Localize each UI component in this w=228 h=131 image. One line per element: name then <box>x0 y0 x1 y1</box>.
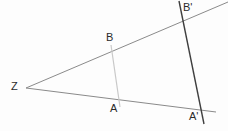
geometry-figure: Z B A B' A' <box>0 0 228 131</box>
upper-ray-line <box>26 2 228 88</box>
vertex-label-b: B <box>106 32 113 43</box>
vertex-label-a-prime: A' <box>189 111 198 122</box>
vertex-label-b-prime: B' <box>183 2 192 13</box>
vertex-label-a: A <box>110 103 117 114</box>
lower-ray-line <box>26 88 216 112</box>
vertex-label-z: Z <box>11 81 18 92</box>
segment-ab-line <box>111 45 120 107</box>
segment-a-prime-b-prime-line <box>179 1 204 124</box>
